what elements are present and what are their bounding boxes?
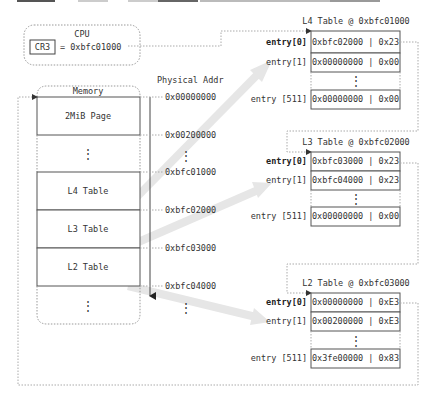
- entry-value: 0xbfc04000 | 0x23: [312, 175, 399, 185]
- entry-value: 0xbfc02000 | 0x23: [312, 37, 399, 47]
- memory-column: Memory Memory 2MiB Page ⋮ L4 Table L3 Ta…: [37, 86, 140, 324]
- l2-table: L2 Table @ 0xbfc03000 entry[0] 0x0000000…: [251, 278, 410, 368]
- entry-label: entry [511]: [251, 94, 307, 104]
- l2-pointer-arrow: [128, 286, 270, 325]
- entry-label: entry[1]: [266, 175, 307, 185]
- entry-ellipsis: ⋮: [350, 334, 362, 348]
- table-title: L4 Table @ 0xbfc01000: [302, 16, 409, 26]
- entry-ellipsis: ⋮: [350, 74, 362, 88]
- memory-ellipsis: ⋮: [82, 299, 94, 313]
- entry-label: entry[1]: [266, 57, 307, 67]
- entry-label: entry[1]: [266, 316, 307, 326]
- cpu-title: CPU: [74, 29, 89, 39]
- memory-block-label: L3 Table: [68, 224, 109, 234]
- table-title: L2 Table @ 0xbfc03000: [302, 278, 409, 288]
- memory-title-text: Memory: [73, 86, 104, 96]
- memory-ellipsis: ⋮: [82, 147, 94, 161]
- cpu-box: CPU CR3 = 0xbfc01000: [24, 25, 140, 65]
- entry-value: 0xbfc03000 | 0x23: [312, 156, 399, 166]
- entry-value: 0x00000000 | 0x00: [312, 94, 399, 104]
- entry-label: entry[0]: [266, 37, 307, 47]
- entry-ellipsis: ⋮: [350, 192, 362, 206]
- entry-value: 0x00000000 | 0x00: [312, 57, 399, 67]
- address-ellipsis: ⋮: [180, 301, 192, 315]
- memory-block-label: L4 Table: [68, 186, 109, 196]
- memory-block-label: L2 Table: [68, 262, 109, 272]
- cr3-value: = 0xbfc01000: [60, 42, 121, 52]
- address-ellipsis: ⋮: [180, 149, 192, 163]
- address-label: 0xbfc04000: [165, 281, 216, 291]
- entry-value: 0x3fe00000 | 0x83: [312, 353, 399, 363]
- address-label: 0x00200000: [165, 130, 216, 140]
- memory-block-label: 2MiB Page: [65, 111, 111, 121]
- l3-table: L3 Table @ 0xbfc02000 entry[0] 0xbfc0300…: [251, 137, 410, 226]
- entry-label: entry[0]: [266, 156, 307, 166]
- physical-address-column: Physical Addr 0x00000000 0x00200000 ⋮ 0x…: [140, 75, 224, 315]
- table-title: L3 Table @ 0xbfc02000: [302, 137, 409, 147]
- address-label: 0xbfc02000: [165, 205, 216, 215]
- entry-value: 0x00200000 | 0xE3: [312, 316, 399, 326]
- entry-value: 0x00000000 | 0xE3: [312, 297, 399, 307]
- address-label: 0x00000000: [165, 92, 216, 102]
- address-label: 0xbfc03000: [165, 243, 216, 253]
- paging-diagram: CPU CR3 = 0xbfc01000 Memory Memory 2MiB …: [0, 0, 438, 404]
- entry-value: 0x00000000 | 0x00: [312, 211, 399, 221]
- l4-table: L4 Table @ 0xbfc01000 entry[0] 0xbfc0200…: [251, 16, 410, 109]
- entry-label: entry[0]: [266, 297, 307, 307]
- entry-label: entry [511]: [251, 353, 307, 363]
- entry-label: entry [511]: [251, 211, 307, 221]
- physical-addr-header: Physical Addr: [157, 75, 224, 85]
- cr3-label: CR3: [35, 42, 50, 52]
- address-label: 0xbfc01000: [165, 167, 216, 177]
